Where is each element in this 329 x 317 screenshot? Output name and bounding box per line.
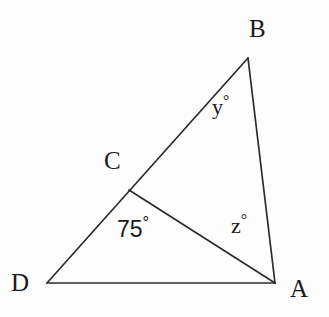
degree-symbol: ° <box>143 213 150 232</box>
segment-DB <box>47 58 248 283</box>
segment-CA <box>129 190 275 283</box>
angle-label-75-degrees: 75° <box>117 215 149 241</box>
angle-label-y: y° <box>212 93 229 118</box>
vertex-label-a: A <box>290 276 309 301</box>
segment-BA <box>248 58 275 283</box>
vertex-label-b: B <box>249 16 266 41</box>
angle-value: y <box>212 94 223 119</box>
degree-symbol: ° <box>223 92 229 109</box>
diagram-canvas <box>0 0 329 317</box>
vertex-label-d: D <box>11 270 30 295</box>
degree-symbol: ° <box>241 211 247 228</box>
angle-value: z <box>231 213 241 238</box>
angle-label-z: z° <box>231 212 247 237</box>
vertex-label-c: C <box>104 148 121 173</box>
angle-value: 75 <box>117 216 143 242</box>
geometry-figure: B C D A y° z° 75° <box>0 0 329 317</box>
